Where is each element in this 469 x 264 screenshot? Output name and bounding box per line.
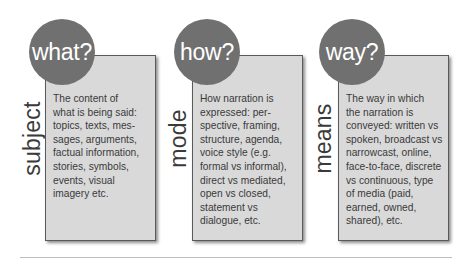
question-circle-how: how? [174, 19, 240, 85]
question-text: way? [326, 39, 379, 66]
question-text: how? [180, 39, 234, 66]
question-circle-what: what? [29, 19, 95, 85]
question-text: what? [32, 39, 92, 66]
side-label-means: means [311, 90, 335, 186]
bottom-divider [20, 257, 452, 258]
description-text: The way in which the narration is convey… [346, 92, 444, 228]
side-label-text: means [310, 103, 337, 173]
question-circle-way: way? [319, 19, 385, 85]
